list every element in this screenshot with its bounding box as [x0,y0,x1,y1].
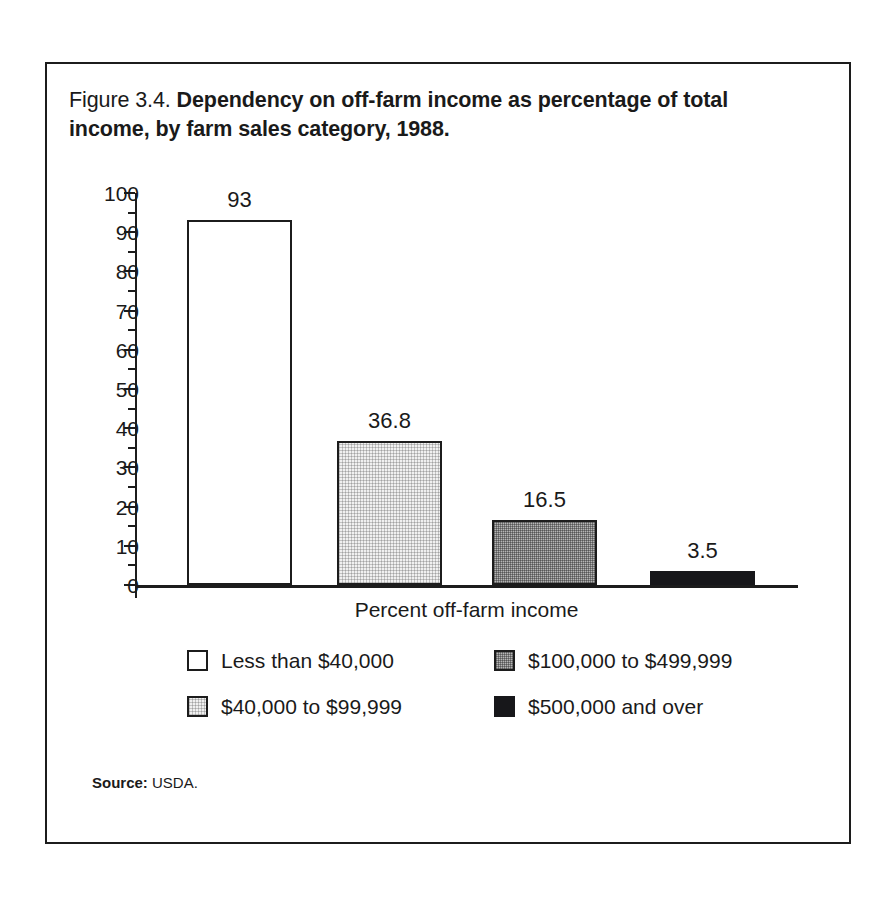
bar-3[interactable] [492,520,597,585]
y-tick-minor [128,564,135,566]
legend-label-40000-to-99999: $40,000 to $99,999 [221,696,402,717]
y-tick-label: 10 [79,536,139,557]
legend-row: Less than $40,000 $100,000 to $499,999 [187,650,787,696]
legend-swatch-500000-and-over [494,696,515,717]
bar-value-label-4: 3.5 [633,540,773,562]
y-tick-label: 50 [79,379,139,400]
legend-label-less-than-40000: Less than $40,000 [221,650,394,671]
legend-swatch-100000-to-499999 [494,650,515,671]
y-tick-minor [128,212,135,214]
source-note: Source: USDA. [92,774,198,792]
legend-swatch-less-than-40000 [187,650,208,671]
x-axis-line [135,585,798,588]
y-tick-minor [128,368,135,370]
legend-swatch-40000-to-99999 [187,696,208,717]
bar-value-label-1: 93 [170,189,310,211]
y-tick-label: 100 [79,183,139,204]
source-value: USDA. [152,774,198,791]
y-tick-minor [128,329,135,331]
y-tick-minor [128,447,135,449]
y-tick-label: 0 [79,575,139,596]
legend-label-500000-and-over: $500,000 and over [528,696,703,717]
y-tick-label: 40 [79,418,139,439]
y-tick-label: 30 [79,457,139,478]
bar-1[interactable] [187,220,292,585]
bar-value-label-2: 36.8 [320,410,460,432]
y-tick-label: 80 [79,261,139,282]
y-tick-label: 20 [79,497,139,518]
y-tick-minor [128,290,135,292]
y-tick-minor [128,525,135,527]
y-tick-minor [128,486,135,488]
legend-item-500000-and-over[interactable]: $500,000 and over [494,696,703,717]
legend-item-40000-to-99999[interactable]: $40,000 to $99,999 [187,696,402,717]
bar-2[interactable] [337,441,442,585]
legend-item-100000-to-499999[interactable]: $100,000 to $499,999 [494,650,732,671]
y-tick-minor [128,251,135,253]
legend-row: $40,000 to $99,999 $500,000 and over [187,696,787,742]
y-tick-minor [128,408,135,410]
y-tick-label: 70 [79,301,139,322]
chart-legend: Less than $40,000 $100,000 to $499,999 $… [187,650,787,742]
y-tick-label: 90 [79,222,139,243]
source-label: Source: [92,774,148,791]
legend-label-100000-to-499999: $100,000 to $499,999 [528,650,732,671]
x-axis-title: Percent off-farm income [135,598,798,622]
bar-4[interactable] [650,571,755,585]
legend-item-less-than-40000[interactable]: Less than $40,000 [187,650,394,671]
y-tick-label: 60 [79,340,139,361]
figure-frame: Figure 3.4. Dependency on off-farm incom… [45,62,851,844]
bar-value-label-3: 16.5 [475,489,615,511]
